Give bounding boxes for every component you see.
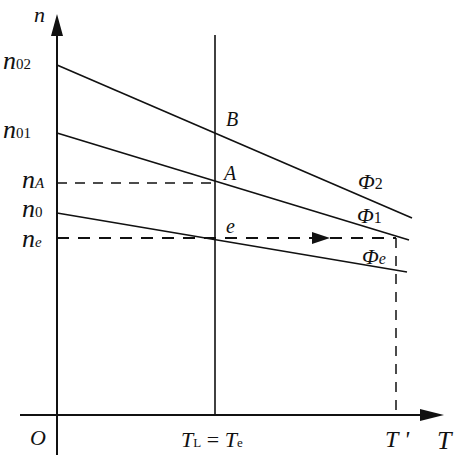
curve-phi2-label: Φ2 [358,171,383,193]
point-A-label: A [224,163,236,183]
diagram-graphics [0,0,472,472]
point-e-label: e [226,216,235,236]
curve-phie-label: Φe [362,246,386,268]
tick-n0: n0 [22,196,43,222]
x-axis-arrow-icon [420,409,444,421]
tick-ne: ne [22,226,42,252]
point-B-label: B [226,109,238,129]
tick-n01: n01 [3,117,31,143]
y-axis-arrow-icon [51,14,63,36]
curve-phi2 [57,65,412,218]
x-axis-label: T [437,428,451,454]
curve-phi1-label: Φ1 [357,205,382,227]
speed-torque-diagram: n T O n02 n01 nA n0 ne B A e Φ2 Φ1 Φe TL… [0,0,472,472]
tick-T-prime: T ' [385,427,409,451]
tick-n02: n02 [3,48,31,74]
y-axis-label: n [34,4,45,26]
ne-direction-arrow-icon [312,232,330,244]
tick-nA: nA [22,167,44,193]
tick-TL-eq-Te: TL = Te [181,429,243,451]
origin-label: O [30,427,46,449]
